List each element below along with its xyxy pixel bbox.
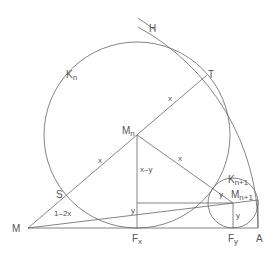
label-fx: Fx	[132, 233, 142, 246]
label-m: M	[12, 223, 20, 234]
label-a: A	[256, 233, 263, 244]
label-kn1: Kn+1	[228, 174, 249, 187]
label-mn: Mn	[122, 125, 135, 138]
label-kn: Kn	[66, 69, 77, 82]
label-x-s-mn: x	[98, 156, 102, 165]
label-y-right: y	[236, 211, 240, 220]
label-x-mn-t: x	[168, 94, 172, 103]
label-y-left: y	[131, 206, 135, 215]
label-fy: Fy	[228, 233, 238, 246]
line-m-t	[28, 75, 207, 228]
label-x-mn-kn1: x	[178, 154, 182, 163]
label-mn1: Mn+1	[231, 189, 253, 202]
label-y-tangent: y	[219, 190, 223, 199]
geometry-diagram: H T Kn Mn S M Fx Fy A Kn+1 Mn+1 x x x x–…	[0, 0, 276, 256]
label-t: T	[208, 69, 214, 80]
label-1-minus-2x: 1–2x	[54, 209, 71, 218]
label-x-minus-y: x–y	[140, 165, 152, 174]
label-s: S	[56, 189, 63, 200]
label-h: H	[149, 23, 156, 34]
